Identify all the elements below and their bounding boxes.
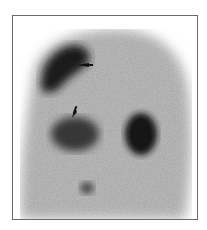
body-outline (21, 30, 191, 219)
scan-frame (12, 15, 198, 220)
lower-center-spot (80, 182, 94, 194)
scan-image (13, 16, 197, 219)
right-mid-uptake (125, 113, 157, 155)
left-mid-uptake (51, 117, 99, 151)
